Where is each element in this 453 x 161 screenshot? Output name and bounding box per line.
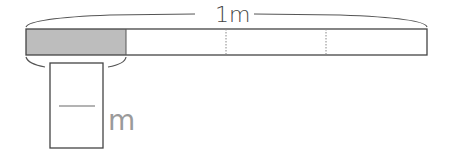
shaded-segment bbox=[26, 29, 126, 55]
top-brace-left bbox=[26, 14, 195, 27]
total-length-label: 1m bbox=[215, 2, 250, 27]
bottom-brace-right bbox=[108, 57, 126, 67]
bottom-brace-left bbox=[26, 57, 45, 67]
top-brace-right bbox=[254, 14, 427, 27]
unit-label: m bbox=[108, 104, 135, 137]
